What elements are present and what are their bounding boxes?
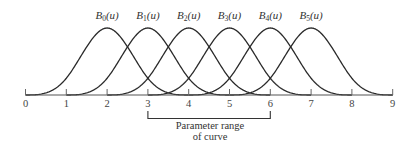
tick-label-6: 6 [268,98,273,109]
tick-label-4: 4 [186,98,192,109]
tick-label-5: 5 [227,98,232,109]
tick-label-2: 2 [104,98,109,109]
basis-labels: B0(u)B1(u)B2(u)B3(u)B4(u)B5(u) [95,9,323,23]
parameter-range-bracket [148,111,270,119]
basis-label-b0: B0(u) [95,9,119,23]
tick-label-0: 0 [23,98,28,109]
bspline-basis-diagram: 0123456789 B0(u)B1(u)B2(u)B3(u)B4(u)B5(u… [0,0,415,146]
basis-curve-b4 [189,28,352,95]
basis-label-b5: B5(u) [299,9,323,23]
basis-label-b4: B4(u) [259,9,283,23]
tick-label-9: 9 [390,98,395,109]
basis-curves [26,28,393,95]
basis-curve-b0 [26,28,189,95]
basis-curve-b1 [66,28,229,95]
basis-curve-b3 [148,28,311,95]
parameter-range-caption-line1: Parameter range [176,120,245,131]
tick-label-7: 7 [308,98,313,109]
tick-label-3: 3 [145,98,150,109]
basis-label-b3: B3(u) [218,9,242,23]
tick-label-8: 8 [349,98,354,109]
basis-label-b1: B1(u) [136,9,160,23]
tick-label-1: 1 [64,98,69,109]
basis-label-b2: B2(u) [177,9,201,23]
basis-curve-b5 [230,28,393,95]
parameter-range-caption-line2: of curve [193,131,228,142]
axis-ticks: 0123456789 [23,89,395,109]
basis-curve-b2 [107,28,270,95]
